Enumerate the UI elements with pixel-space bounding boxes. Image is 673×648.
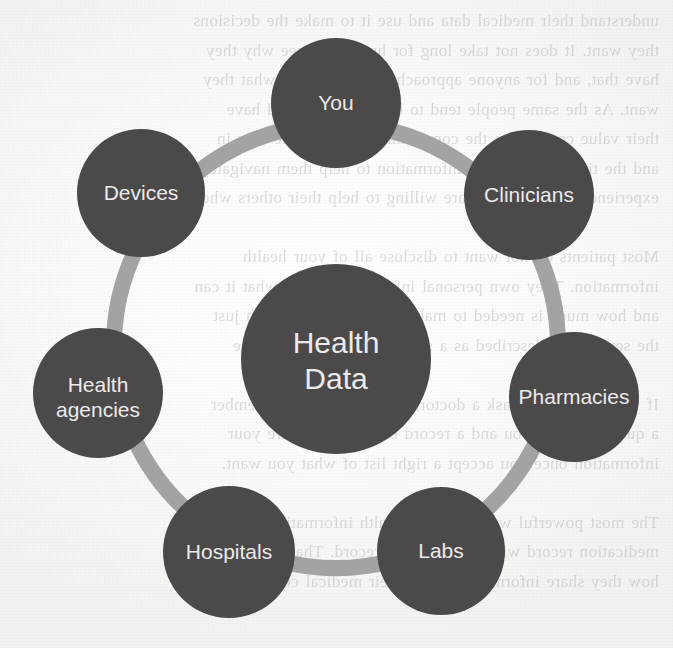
node-label-labs: Labs [418,539,464,562]
node-labs: Labs [377,487,505,615]
health-data-ecosystem-diagram: YouCliniciansPharmaciesLabsHospitalsHeal… [0,0,673,648]
connector-arc-pharmacies-to-labs [477,439,537,517]
node-label-line-2: agencies [56,398,140,421]
connector-arc-you-to-clinicians [385,129,477,174]
node-label-line-1: Health [68,373,129,396]
connector-arc-devices-to-you [195,129,288,174]
hub-label-line-1: Health [293,326,380,359]
hub-label-line-2: Data [304,362,368,395]
connector-arc-health-agencies-to-devices [114,250,136,341]
node-clinicians: Clinicians [464,130,594,260]
node-label-hospitals: Hospitals [186,540,272,563]
node-you: You [271,38,401,168]
node-hospitals: Hospitals [163,486,295,618]
node-label-devices: Devices [104,181,179,204]
node-devices: Devices [77,129,205,257]
diagram-canvas: YouCliniciansPharmaciesLabsHospitalsHeal… [0,0,673,648]
connector-arc-hospitals-to-health-agencies [133,436,192,516]
node-label-clinicians: Clinicians [484,183,574,206]
hub-circle [241,264,431,454]
node-label-pharmacies: Pharmacies [519,385,630,408]
connector-arc-clinicians-to-pharmacies [537,251,558,344]
node-health-agencies: Healthagencies [33,328,163,458]
connector-arc-labs-to-hospitals [280,561,392,568]
hub-node-health-data: HealthData [241,264,431,454]
node-label-you: You [318,91,353,114]
scanned-page: understand their medical data and use it… [0,0,673,648]
node-pharmacies: Pharmacies [509,332,639,462]
